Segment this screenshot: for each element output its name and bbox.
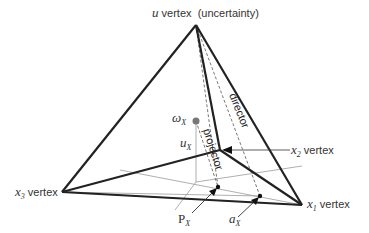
director-label: director (227, 91, 252, 130)
px-label: PX (178, 212, 190, 228)
x2-pointer-arrow (222, 146, 290, 154)
omega-label: ωX (172, 111, 186, 127)
x3-vertex-label: x3 vertex (15, 185, 58, 201)
x1-vertex-label: x1 vertex (307, 197, 350, 213)
ax-label: aX (229, 212, 240, 228)
edge-u-x3 (62, 25, 196, 192)
ux-label: uX (180, 136, 191, 152)
u-vertex-label: u vertex (uncertainty) (152, 6, 259, 19)
projector-label: projector (201, 127, 226, 172)
omega-point (193, 118, 200, 125)
edge-x3-x1 (62, 192, 302, 205)
edge-u-x1 (196, 25, 302, 205)
x2-vertex-label: x2 vertex (291, 143, 334, 159)
